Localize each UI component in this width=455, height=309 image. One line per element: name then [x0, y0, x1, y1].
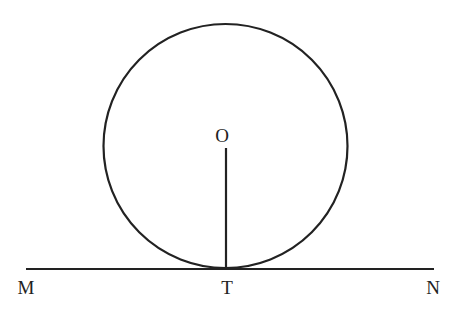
- label-m: M: [18, 277, 35, 298]
- label-n: N: [426, 277, 440, 298]
- label-o: O: [215, 125, 229, 146]
- label-t: T: [221, 277, 233, 298]
- geometry-diagram: O M T N: [0, 0, 455, 309]
